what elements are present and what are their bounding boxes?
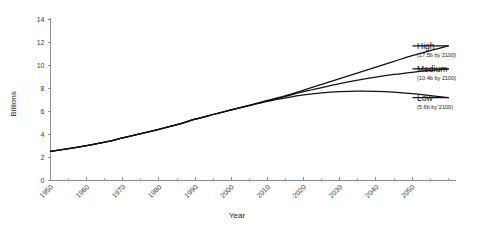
x-tick-labels: 1950196019701980199020002010202020302040… bbox=[38, 183, 416, 199]
x-tick-label: 2020 bbox=[291, 183, 307, 199]
x-tick-label: 2030 bbox=[328, 183, 344, 199]
annotation-sublabel-low: (5.6b by 2100) bbox=[417, 104, 453, 110]
x-axis-title: Year bbox=[229, 211, 246, 220]
y-tick-label: 0 bbox=[41, 177, 45, 184]
series-line-medium bbox=[51, 69, 449, 151]
x-tick-label: 1970 bbox=[111, 183, 127, 199]
series-annotations: High(17.5b by 2100)Medium(10.4b by 2100)… bbox=[413, 41, 456, 110]
population-projection-chart: 1950196019701980199020002010202020302040… bbox=[0, 0, 487, 231]
y-tick-label: 12 bbox=[37, 39, 45, 46]
annotation-label-high: High bbox=[417, 41, 435, 51]
x-tick-label: 2050 bbox=[400, 183, 416, 199]
x-tick-label: 2040 bbox=[364, 183, 380, 199]
y-tick-label: 8 bbox=[41, 85, 45, 92]
x-tick-label: 1960 bbox=[74, 183, 90, 199]
y-tick-label: 14 bbox=[37, 16, 45, 23]
x-tick-label: 2010 bbox=[255, 183, 271, 199]
x-tick-label: 1980 bbox=[147, 183, 163, 199]
y-axis-title: Billions bbox=[9, 91, 18, 116]
y-tick-label: 6 bbox=[41, 108, 45, 115]
x-tick-label: 2000 bbox=[219, 183, 235, 199]
annotation-sublabel-high: (17.5b by 2100) bbox=[417, 52, 456, 58]
x-tick-label: 1990 bbox=[183, 183, 199, 199]
series-line-low bbox=[51, 91, 449, 151]
y-tick-label: 4 bbox=[41, 131, 45, 138]
y-tick-labels: 02468101214 bbox=[37, 16, 45, 184]
series-layer bbox=[51, 46, 449, 151]
series-line-high bbox=[51, 46, 449, 151]
annotation-sublabel-medium: (10.4b by 2100) bbox=[417, 75, 456, 81]
x-tick-label: 1950 bbox=[38, 183, 54, 199]
axes-layer bbox=[51, 18, 456, 181]
chart-canvas: 1950196019701980199020002010202020302040… bbox=[0, 0, 487, 231]
annotation-label-low: Low bbox=[417, 93, 433, 103]
y-tick-label: 10 bbox=[37, 62, 45, 69]
annotation-label-medium: Medium bbox=[417, 64, 447, 74]
y-tick-label: 2 bbox=[41, 154, 45, 161]
